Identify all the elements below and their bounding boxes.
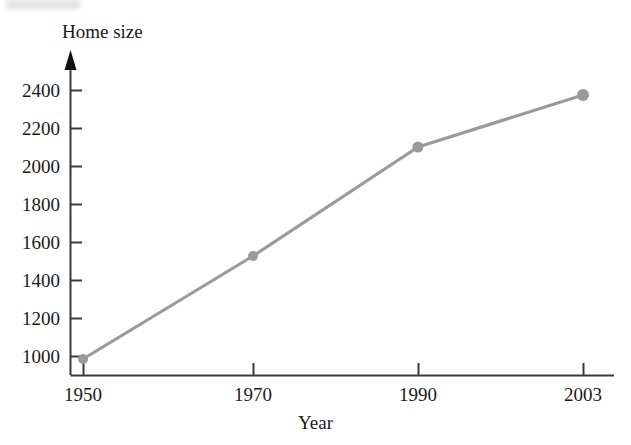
y-axis-ticks bbox=[71, 91, 83, 357]
data-point-1970 bbox=[248, 251, 258, 261]
plot-area bbox=[0, 0, 631, 445]
y-tick-label-1000: 1000 bbox=[2, 347, 60, 366]
line-chart: Home size bbox=[0, 0, 631, 445]
y-tick-label-1400: 1400 bbox=[2, 271, 60, 290]
data-point-2003 bbox=[577, 89, 589, 101]
data-series-home-size bbox=[78, 89, 589, 364]
y-tick-label-2000: 2000 bbox=[2, 157, 60, 176]
x-tick-label-1970: 1970 bbox=[218, 385, 288, 404]
x-tick-label-1950: 1950 bbox=[48, 385, 118, 404]
data-point-1950 bbox=[78, 354, 88, 364]
y-tick-label-1200: 1200 bbox=[2, 309, 60, 328]
y-tick-label-1800: 1800 bbox=[2, 195, 60, 214]
x-tick-label-1990: 1990 bbox=[383, 385, 453, 404]
data-point-1990 bbox=[413, 142, 424, 153]
y-tick-label-1600: 1600 bbox=[2, 233, 60, 252]
x-axis-ticks bbox=[84, 363, 584, 376]
y-tick-label-2200: 2200 bbox=[2, 119, 60, 138]
y-tick-label-2400: 2400 bbox=[2, 81, 60, 100]
x-tick-label-2003: 2003 bbox=[548, 385, 618, 404]
y-axis bbox=[65, 50, 77, 375]
x-axis-title: Year bbox=[0, 412, 631, 434]
